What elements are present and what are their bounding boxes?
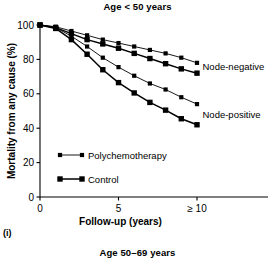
data-point-marker	[147, 56, 152, 61]
data-point-marker	[179, 66, 184, 71]
data-point-marker	[195, 61, 199, 65]
data-point-marker	[148, 81, 152, 85]
data-point-marker	[84, 37, 89, 42]
series-3	[38, 23, 199, 106]
x-tick-label: 0	[37, 203, 43, 214]
x-axis-title: Follow-up (years)	[79, 216, 162, 227]
data-point-marker	[147, 100, 152, 105]
legend-label: Control	[88, 174, 119, 185]
legend-label: Polychemotherapy	[88, 150, 167, 161]
data-point-marker	[116, 41, 120, 45]
legend-entry-1: Polychemotherapy	[58, 150, 167, 161]
x-tick-label: ≥ 10	[187, 203, 207, 214]
data-point-marker	[164, 87, 168, 91]
panel-label: (i)	[3, 228, 12, 238]
data-point-marker	[100, 41, 105, 46]
data-point-marker	[116, 80, 121, 85]
data-point-marker	[164, 51, 168, 55]
next-panel-title: Age 50–69 years	[0, 247, 275, 258]
y-tick-label: 40	[23, 123, 35, 134]
data-point-marker	[148, 48, 152, 52]
data-point-marker	[53, 26, 58, 31]
series-line	[40, 25, 197, 125]
data-point-marker	[116, 46, 121, 51]
data-point-marker	[195, 102, 199, 106]
data-point-marker	[179, 116, 184, 121]
data-point-marker	[100, 67, 105, 72]
y-axis-title: Mortality from any cause (%)	[6, 43, 17, 179]
curve-annotation-1: Node-negative	[202, 61, 264, 72]
legend-marker	[57, 176, 62, 181]
data-point-marker	[101, 38, 105, 42]
y-tick-label: 20	[23, 157, 35, 168]
data-point-marker	[132, 51, 137, 56]
series-1	[38, 23, 199, 65]
data-point-marker	[85, 44, 89, 48]
x-tick-label: 5	[116, 203, 122, 214]
data-point-marker	[132, 90, 137, 95]
y-tick-label: 0	[28, 192, 34, 203]
data-point-marker	[179, 95, 183, 99]
series-4	[37, 22, 199, 127]
y-tick-label: 80	[23, 54, 35, 65]
series-line	[40, 25, 197, 104]
data-point-marker	[194, 122, 199, 127]
data-point-marker	[116, 65, 120, 69]
legend-marker	[80, 153, 84, 157]
data-point-marker	[132, 44, 136, 48]
data-point-marker	[84, 52, 89, 57]
survival-chart: 02040608010005≥ 10Follow-up (years)Morta…	[0, 0, 275, 266]
y-tick-label: 100	[17, 20, 34, 31]
data-point-marker	[179, 56, 183, 60]
data-point-marker	[101, 56, 105, 60]
data-point-marker	[69, 37, 74, 42]
legend-marker	[79, 176, 84, 181]
y-tick-label: 60	[23, 88, 35, 99]
data-point-marker	[132, 74, 136, 78]
data-point-marker	[163, 107, 168, 112]
curve-annotation-2: Node-positive	[202, 109, 260, 120]
data-point-marker	[194, 70, 199, 75]
legend-marker	[58, 153, 62, 157]
data-point-marker	[85, 33, 89, 37]
legend-entry-2: Control	[57, 174, 118, 185]
figure-panel: Age < 50 years 02040608010005≥ 10Follow-…	[0, 0, 275, 266]
data-point-marker	[37, 22, 42, 27]
data-point-marker	[163, 61, 168, 66]
